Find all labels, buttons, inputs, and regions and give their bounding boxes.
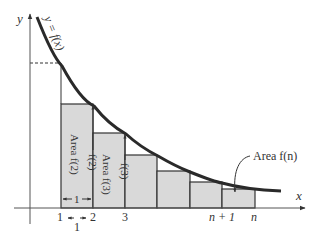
x-tick-2: 2 xyxy=(90,210,96,224)
x-axis-label: x xyxy=(295,188,302,203)
y-axis-label: y xyxy=(15,11,23,26)
rectangle-5 xyxy=(190,182,222,208)
outer-width-label: 1 xyxy=(74,220,80,234)
area-f2-label: Area f(2) xyxy=(68,134,81,175)
inner-width-label: 1 xyxy=(74,193,80,205)
f3-height-label: f(3) xyxy=(118,163,131,180)
area-fn-label: Area f(n) xyxy=(253,149,297,163)
x-tick-3: 3 xyxy=(122,210,128,224)
rectangle-4 xyxy=(157,171,190,208)
x-tick-n-plus-1: n + 1 xyxy=(209,210,235,224)
area-f3-label: Area f(3) xyxy=(100,154,113,195)
rectangle-6 xyxy=(222,189,255,208)
f2-height-label: f(2) xyxy=(86,154,99,171)
integral-test-diagram: y x y = f(x) Area f(2) f(2) Area f(3) f(… xyxy=(0,0,315,238)
x-tick-1: 1 xyxy=(57,210,63,224)
x-tick-n: n xyxy=(251,210,257,224)
